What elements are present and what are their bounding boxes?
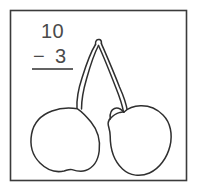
subtrahend-value: 3 — [55, 45, 67, 67]
worksheet-canvas: 10 − 3 — [0, 0, 197, 193]
minuend-value: 10 — [41, 20, 64, 42]
minus-operator: − — [33, 45, 45, 67]
worksheet-card: 10 − 3 — [0, 0, 197, 193]
